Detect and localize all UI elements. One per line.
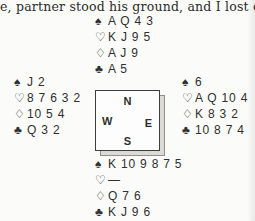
- north-spades-row: ♠ A Q 4 3: [95, 13, 154, 29]
- north-clubs-cards: A 5: [108, 61, 128, 77]
- east-spades-cards: 6: [195, 74, 202, 90]
- west-clubs-cards: Q 3 2: [27, 122, 60, 138]
- compass-west-label: W: [102, 115, 112, 127]
- heart-icon: ♡: [14, 90, 27, 106]
- compass-diagram: N W E S: [95, 90, 167, 158]
- south-hearts-row: ♡ —: [95, 172, 182, 188]
- north-hearts-cards: K J 9 5: [108, 29, 151, 45]
- spade-icon: ♠: [95, 156, 108, 172]
- compass-north-label: N: [124, 95, 132, 107]
- compass-south-label: S: [124, 135, 131, 147]
- south-spades-cards: K 10 9 8 7 5: [108, 156, 182, 172]
- east-clubs-cards: 10 8 7 4: [195, 122, 245, 138]
- east-spades-row: ♠ 6: [182, 74, 248, 90]
- south-diamonds-cards: Q 7 6: [108, 188, 141, 204]
- east-diamonds-row: ♢ K 8 3 2: [182, 106, 248, 122]
- club-icon: ♣: [14, 122, 27, 138]
- club-icon: ♣: [95, 204, 108, 220]
- north-diamonds-row: ♢ A J 9: [95, 45, 154, 61]
- south-clubs-row: ♣ K J 9 6: [95, 204, 182, 220]
- east-hearts-cards: A Q 10 4: [195, 90, 248, 106]
- book-body-text: e, partner stood his ground, and I lost …: [0, 0, 255, 14]
- spade-icon: ♠: [95, 13, 108, 29]
- north-hearts-row: ♡ K J 9 5: [95, 29, 154, 45]
- compass-east-label: E: [145, 117, 152, 129]
- heart-icon: ♡: [95, 172, 108, 188]
- west-diamonds-cards: 10 5 4: [27, 106, 65, 122]
- south-hearts-void: —: [108, 172, 121, 188]
- heart-icon: ♡: [182, 90, 195, 106]
- spade-icon: ♠: [14, 74, 27, 90]
- spade-icon: ♠: [182, 74, 195, 90]
- page-edge-shading: [247, 0, 255, 221]
- south-clubs-cards: K J 9 6: [108, 204, 151, 220]
- diamond-icon: ♢: [95, 188, 108, 204]
- north-clubs-row: ♣ A 5: [95, 61, 154, 77]
- east-diamonds-cards: K 8 3 2: [195, 106, 239, 122]
- west-hand: ♠ J 2 ♡ 8 7 6 3 2 ♢ 10 5 4 ♣ Q 3 2: [14, 74, 81, 138]
- west-spades-row: ♠ J 2: [14, 74, 81, 90]
- north-spades-cards: A Q 4 3: [108, 13, 154, 29]
- north-hand: ♠ A Q 4 3 ♡ K J 9 5 ♢ A J 9 ♣ A 5: [95, 13, 154, 77]
- west-hearts-row: ♡ 8 7 6 3 2: [14, 90, 81, 106]
- west-diamonds-row: ♢ 10 5 4: [14, 106, 81, 122]
- east-hand: ♠ 6 ♡ A Q 10 4 ♢ K 8 3 2 ♣ 10 8 7 4: [182, 74, 248, 138]
- club-icon: ♣: [95, 61, 108, 77]
- south-hand: ♠ K 10 9 8 7 5 ♡ — ♢ Q 7 6 ♣ K J 9 6: [95, 156, 182, 220]
- north-diamonds-cards: A J 9: [108, 45, 139, 61]
- club-icon: ♣: [182, 122, 195, 138]
- diamond-icon: ♢: [14, 106, 27, 122]
- south-diamonds-row: ♢ Q 7 6: [95, 188, 182, 204]
- west-clubs-row: ♣ Q 3 2: [14, 122, 81, 138]
- west-spades-cards: J 2: [27, 74, 45, 90]
- west-hearts-cards: 8 7 6 3 2: [27, 90, 81, 106]
- compass-box: N W E S: [95, 90, 160, 151]
- heart-icon: ♡: [95, 29, 108, 45]
- south-spades-row: ♠ K 10 9 8 7 5: [95, 156, 182, 172]
- east-clubs-row: ♣ 10 8 7 4: [182, 122, 248, 138]
- east-hearts-row: ♡ A Q 10 4: [182, 90, 248, 106]
- diamond-icon: ♢: [95, 45, 108, 61]
- diamond-icon: ♢: [182, 106, 195, 122]
